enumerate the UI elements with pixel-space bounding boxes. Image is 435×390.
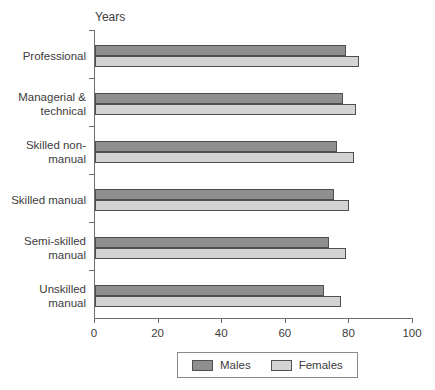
x-tick-label-80: 80 [342,327,355,339]
bar-males-semi-skilled-manual [95,237,329,248]
x-axis-line [94,318,413,319]
bar-group-skilled-non-manual [94,126,412,174]
category-label-professional: Professional [0,49,86,63]
bar-males-professional [95,45,346,56]
category-label-line: manual [0,248,86,262]
y-axis-tick [89,30,94,31]
category-label-line: Skilled manual [0,193,86,207]
x-axis-tick [221,318,222,323]
category-label-line: Semi-skilled [0,234,86,248]
category-label-line: Professional [0,49,86,63]
bar-males-managerial-technical [95,93,343,104]
x-tick-label-20: 20 [151,327,164,339]
chart-figure: Years 020406080100 MalesFemales Professi… [0,0,435,390]
y-axis-tick [89,270,94,271]
bar-females-professional [95,56,359,67]
x-tick-label-40: 40 [215,327,228,339]
category-label-skilled-manual: Skilled manual [0,193,86,207]
axis-top-label: Years [95,10,125,24]
legend-item-females: Females [271,359,343,371]
bar-group-professional [94,30,412,78]
category-label-line: Skilled non- [0,138,86,152]
category-label-line: technical [0,104,86,118]
category-label-semi-skilled-manual: Semi-skilledmanual [0,234,86,262]
category-label-line: Managerial & [0,90,86,104]
x-tick-label-0: 0 [91,327,97,339]
legend: MalesFemales [177,352,358,378]
x-tick-label-100: 100 [402,327,421,339]
category-label-managerial-technical: Managerial &technical [0,90,86,118]
x-axis-tick [158,318,159,323]
legend-item-males: Males [192,359,251,371]
bar-group-semi-skilled-manual [94,222,412,270]
category-label-line: Unskilled [0,282,86,296]
y-axis-tick [89,174,94,175]
legend-swatch-males [192,360,213,371]
category-label-line: manual [0,152,86,166]
x-axis-tick [285,318,286,323]
y-axis-tick [89,222,94,223]
bar-females-unskilled-manual [95,296,341,307]
category-label-skilled-non-manual: Skilled non-manual [0,138,86,166]
x-axis-tick [412,318,413,323]
legend-label-males: Males [220,359,251,371]
category-label-line: manual [0,296,86,310]
category-label-unskilled-manual: Unskilledmanual [0,282,86,310]
bar-males-skilled-non-manual [95,141,337,152]
x-axis-tick [94,318,95,323]
legend-label-females: Females [299,359,343,371]
bar-females-skilled-non-manual [95,152,354,163]
x-axis-tick [348,318,349,323]
bar-group-skilled-manual [94,174,412,222]
bar-males-skilled-manual [95,189,334,200]
bar-males-unskilled-manual [95,285,324,296]
bar-group-unskilled-manual [94,270,412,318]
plot-area: 020406080100 [94,30,412,318]
y-axis-tick [89,78,94,79]
bar-females-skilled-manual [95,200,349,211]
bar-group-managerial-technical [94,78,412,126]
x-tick-label-60: 60 [278,327,291,339]
bar-females-semi-skilled-manual [95,248,346,259]
bar-females-managerial-technical [95,104,356,115]
y-axis-tick [89,126,94,127]
legend-swatch-females [271,360,292,371]
